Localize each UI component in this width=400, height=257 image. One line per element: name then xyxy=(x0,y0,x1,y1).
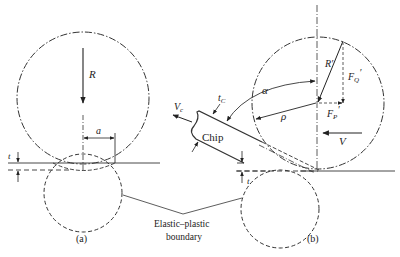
label-a: a xyxy=(96,125,101,136)
panel-b: Chip Vc tC α ρ R′ FQ′ FP′ V t (b) xyxy=(173,5,395,248)
chip-thickness-arrow-top xyxy=(213,104,220,114)
tool-circle-b xyxy=(252,37,384,169)
label-alpha: α xyxy=(262,84,268,96)
caption-b: (b) xyxy=(307,233,319,245)
label-t-b: t xyxy=(247,176,250,186)
chip-velocity-arrow xyxy=(173,115,192,122)
caption-a: (a) xyxy=(76,233,87,245)
label-rho: ρ xyxy=(280,110,286,122)
label-Vc: Vc xyxy=(174,101,184,114)
shear-line-1 xyxy=(262,142,319,170)
resultant-force-R-prime xyxy=(318,41,343,102)
cutting-diagram: R a t (a) Chip Vc tC α xyxy=(0,0,400,257)
label-V: V xyxy=(339,135,347,147)
chip-thickness-arrow-bottom xyxy=(192,142,198,152)
label-chip: Chip xyxy=(202,131,224,143)
shear-line-2 xyxy=(259,145,315,173)
label-R-prime: R′ xyxy=(324,58,334,69)
label-boundary-line2: boundary xyxy=(166,232,202,242)
label-t-a: t xyxy=(8,151,11,161)
label-FP: FP′ xyxy=(326,104,340,121)
boundary-leader-lines xyxy=(123,195,242,214)
label-R: R xyxy=(88,68,96,80)
label-FQ: FQ′ xyxy=(347,67,362,84)
label-boundary-line1: Elastic–plastic xyxy=(154,219,209,229)
label-tC: tC xyxy=(218,92,226,105)
panel-a: R a t (a) xyxy=(8,32,160,245)
